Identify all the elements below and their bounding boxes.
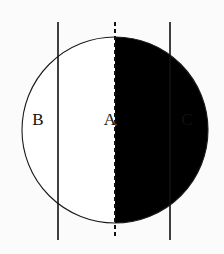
figure-canvas: B A C — [0, 0, 224, 254]
shaded-right-half — [115, 35, 214, 225]
label-c: C — [181, 110, 192, 129]
label-b: B — [32, 110, 43, 129]
label-a: A — [104, 110, 117, 129]
geometry-figure: B A C — [0, 0, 224, 254]
